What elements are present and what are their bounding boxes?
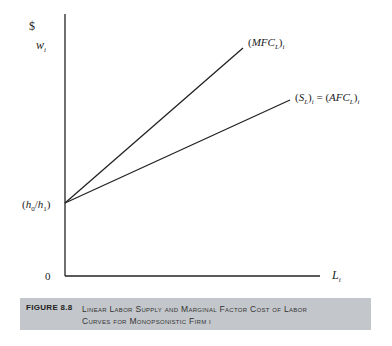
- mfc-curve: [65, 48, 243, 203]
- mfc-curve-label: (MFCL)i: [248, 36, 284, 51]
- figure-caption-text: Linear Labor Supply and Marginal Factor …: [82, 303, 362, 327]
- figure-caption: FIGURE 8.8 Linear Labor Supply and Margi…: [20, 298, 371, 330]
- figure-number: FIGURE 8.8: [26, 303, 73, 312]
- caption-line-2: Curves for Monopsonistic Firm i: [82, 315, 362, 327]
- x-axis-label-sub: i: [339, 276, 341, 284]
- supply-curve: [65, 100, 290, 203]
- y-axis-label-main: w: [36, 38, 44, 52]
- x-axis-label: Li: [332, 268, 341, 284]
- diagram-canvas: [0, 0, 392, 290]
- x-axis-label-main: L: [332, 268, 339, 282]
- y-axis-label: wi: [36, 38, 46, 54]
- y-axis-label-sub: i: [44, 46, 46, 54]
- supply-curve-label: (SL)i = (AFCL)i: [295, 91, 359, 106]
- origin-label: 0: [45, 270, 51, 282]
- y-axis-dollar-label: $: [29, 19, 35, 34]
- diagram: $ wi (h0/h1) 0 Li (MFCL)i (SL)i = (AFCL)…: [0, 0, 392, 290]
- intercept-label: (h0/h1): [22, 198, 50, 213]
- caption-line-1: Linear Labor Supply and Marginal Factor …: [82, 303, 362, 315]
